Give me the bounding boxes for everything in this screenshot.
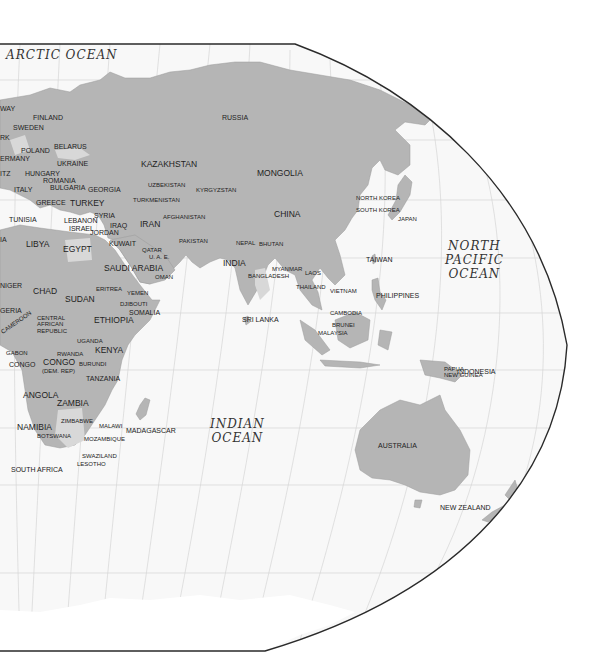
country-label-swaziland: SWAZILAND — [82, 453, 117, 459]
country-label-botswana: BOTSWANA — [37, 433, 71, 439]
country-label-kazakhstan: KAZAKHSTAN — [141, 160, 197, 169]
country-label-syria: SYRIA — [94, 212, 115, 219]
country-label-japan: JAPAN — [398, 216, 417, 222]
label-line: AFRICAN — [37, 321, 67, 327]
map-canvas — [0, 0, 597, 660]
country-label-madagascar: MADAGASCAR — [126, 427, 176, 434]
country-label-afghanistan: AFGHANISTAN — [163, 214, 205, 220]
ocean-label-line: INDIAN — [210, 418, 265, 432]
world-map: ARCTIC OCEAN NORTH PACIFIC OCEAN INDIAN … — [0, 0, 597, 660]
country-label-central-african-republic: CENTRAL AFRICAN REPUBLIC — [37, 315, 67, 334]
country-label-australia: AUSTRALIA — [378, 442, 417, 449]
country-label-egypt: EGYPT — [63, 245, 92, 254]
country-label-gabon: GABON — [6, 350, 28, 356]
country-label-angola: ANGOLA — [23, 391, 58, 400]
country-label-djibouti: DJIBOUTI — [120, 301, 147, 307]
country-label-iran: IRAN — [140, 220, 160, 229]
country-label-pakistan: PAKISTAN — [179, 238, 208, 244]
ocean-label-line: PACIFIC — [445, 254, 504, 268]
country-label-myanmar: MYANMAR — [272, 266, 302, 272]
ocean-label-arctic: ARCTIC OCEAN — [6, 49, 118, 63]
country-label-mongolia: MONGOLIA — [257, 169, 303, 178]
country-label-uae: U. A. E. — [149, 254, 169, 260]
country-label-china: CHINA — [274, 210, 300, 219]
country-label-poland: POLAND — [21, 147, 50, 154]
country-label-turkey: TURKEY — [70, 199, 104, 208]
country-label-ukraine: UKRAINE — [57, 160, 88, 167]
country-label-bhutan: BHUTAN — [259, 241, 283, 247]
country-label-eritrea: ERITREA — [96, 286, 122, 292]
country-label-new-zealand: NEW ZEALAND — [440, 504, 491, 511]
country-label-south-korea: SOUTH KOREA — [356, 207, 400, 213]
country-label-lesotho: LESOTHO — [77, 461, 106, 467]
country-label-nigeria-partial: GERIA — [0, 307, 22, 314]
country-label-qatar: QATAR — [142, 247, 162, 253]
country-label-nepal: NEPAL — [236, 240, 255, 246]
country-label-oman: OMAN — [155, 274, 173, 280]
country-label-norway: WAY — [0, 105, 15, 112]
country-label-belarus: BELARUS — [54, 143, 87, 150]
country-label-congo-dr-sub: (DEM. REP) — [42, 368, 75, 374]
country-label-thailand: THAILAND — [296, 284, 326, 290]
country-label-yemen: YEMEN — [127, 290, 148, 296]
country-label-germany: ERMANY — [0, 155, 30, 162]
country-label-north-korea: NORTH KOREA — [356, 195, 400, 201]
country-label-finland: FINLAND — [33, 114, 63, 121]
country-label-italy: ITALY — [14, 186, 32, 193]
country-label-sweden: SWEDEN — [13, 124, 44, 131]
ocean-label-line: NORTH — [445, 240, 504, 254]
country-label-bangladesh: BANGLADESH — [248, 273, 289, 279]
country-label-papua-new-guinea: PAPUA NEW GUINEA — [444, 366, 483, 379]
country-label-iraq: IRAQ — [110, 222, 127, 229]
country-label-uganda: UGANDA — [77, 338, 103, 344]
country-label-burundi: BURUNDI — [79, 361, 106, 367]
country-label-jordan: JORDAN — [90, 229, 119, 236]
country-label-saudi-arabia: SAUDI ARABIA — [104, 264, 163, 273]
country-label-libya: LIBYA — [26, 240, 49, 249]
country-label-congo: CONGO — [9, 361, 35, 368]
ocean-label-north-pacific: NORTH PACIFIC OCEAN — [445, 240, 504, 281]
country-label-algeria-partial: IA — [0, 236, 7, 243]
country-label-zambia: ZAMBIA — [57, 399, 89, 408]
country-label-georgia: GEORGIA — [88, 186, 121, 193]
country-label-laos: LAOS — [305, 270, 321, 276]
country-label-tunisia: TUNISIA — [9, 216, 37, 223]
country-label-south-africa: SOUTH AFRICA — [11, 466, 63, 473]
country-label-india: INDIA — [223, 259, 246, 268]
country-label-russia: RUSSIA — [222, 114, 248, 121]
country-label-greece: GREECE — [36, 199, 66, 206]
country-label-sudan: SUDAN — [65, 295, 95, 304]
country-label-hungary: HUNGARY — [25, 170, 60, 177]
country-label-lebanon: LEBANON — [64, 217, 97, 224]
country-label-taiwan: TAIWAN — [366, 256, 392, 263]
ocean-label-indian: INDIAN OCEAN — [210, 418, 265, 446]
country-label-congo-dr: CONGO — [43, 358, 75, 367]
country-label-philippines: PHILIPPINES — [376, 292, 419, 299]
country-label-brunei: BRUNEI — [332, 322, 355, 328]
country-label-niger: NIGER — [0, 282, 22, 289]
country-label-malawi: MALAWI — [99, 423, 122, 429]
country-label-namibia: NAMIBIA — [17, 423, 52, 432]
country-label-switzerland: ITZ — [0, 170, 11, 177]
country-label-ethiopia: ETHIOPIA — [94, 316, 134, 325]
country-label-mozambique: MOZAMBIQUE — [84, 436, 125, 442]
label-line: NEW GUINEA — [444, 372, 483, 378]
country-label-cambodia: CAMBODIA — [330, 310, 362, 316]
country-label-malaysia: MALAYSIA — [318, 330, 348, 336]
country-label-kyrgyzstan: KYRGYZSTAN — [196, 187, 236, 193]
country-label-bulgaria: BULGARIA — [50, 184, 85, 191]
country-label-tanzania: TANZANIA — [86, 375, 120, 382]
country-label-denmark: RK — [0, 134, 10, 141]
country-label-uzbekistan: UZBEKISTAN — [148, 182, 185, 188]
country-label-zimbabwe: ZIMBABWE — [61, 418, 93, 424]
country-label-kenya: KENYA — [95, 346, 123, 355]
country-label-kuwait: KUWAIT — [109, 240, 136, 247]
ocean-label-line: OCEAN — [210, 432, 265, 446]
country-label-turkmenistan: TURKMENISTAN — [133, 197, 180, 203]
country-label-chad: CHAD — [33, 287, 57, 296]
label-line: REPUBLIC — [37, 328, 67, 334]
country-label-vietnam: VIETNAM — [330, 288, 357, 294]
country-label-romania: ROMANIA — [43, 177, 76, 184]
country-label-sri-lanka: SRI LANKA — [242, 316, 279, 323]
ocean-label-line: OCEAN — [445, 268, 504, 282]
